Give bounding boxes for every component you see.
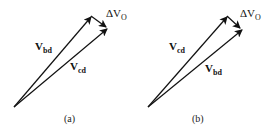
vector-lower-b: [148, 30, 242, 107]
label-delta-a: ΔVO: [106, 7, 127, 22]
caption-b: (b): [192, 113, 204, 124]
phasor-diagrams: [0, 0, 273, 133]
label-lower-b: Vbd: [205, 62, 222, 77]
label-lower-a: Vcd: [70, 60, 86, 75]
label-upper-a: Vbd: [35, 40, 52, 55]
delta-vector-a: [91, 16, 106, 27]
diagram-b: [148, 16, 242, 107]
label-upper-b: Vcd: [169, 40, 185, 55]
diagram-a: [14, 16, 107, 107]
label-delta-b: ΔVO: [240, 7, 261, 22]
delta-vector-b: [227, 16, 240, 28]
vector-lower-a: [14, 29, 107, 107]
caption-a: (a): [64, 113, 75, 124]
